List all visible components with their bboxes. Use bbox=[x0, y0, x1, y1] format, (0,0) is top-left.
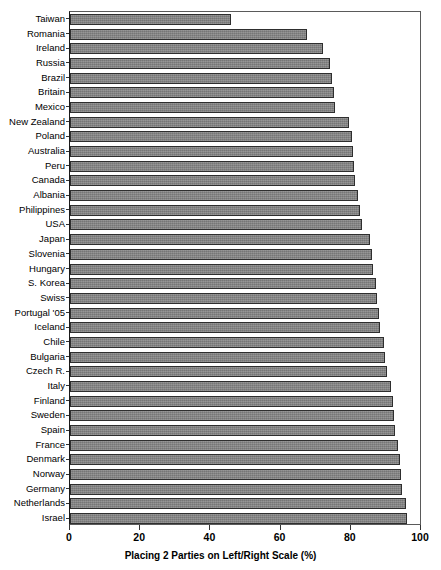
bar-row bbox=[70, 352, 421, 363]
bar bbox=[70, 205, 360, 216]
bar bbox=[70, 293, 377, 304]
bar bbox=[70, 146, 353, 157]
bar bbox=[70, 117, 349, 128]
y-axis-label: USA bbox=[0, 218, 65, 229]
bar-row bbox=[70, 337, 421, 348]
bar bbox=[70, 396, 393, 407]
bar-row bbox=[70, 29, 421, 40]
bar-row bbox=[70, 440, 421, 451]
y-axis-label: Chile bbox=[0, 336, 65, 347]
y-axis-label: Italy bbox=[0, 380, 65, 391]
bar bbox=[70, 454, 400, 465]
y-axis-label: Spain bbox=[0, 424, 65, 435]
bar-row bbox=[70, 87, 421, 98]
x-axis-title: Placing 2 Parties on Left/Right Scale (%… bbox=[0, 549, 441, 563]
y-axis-label: France bbox=[0, 439, 65, 450]
bar bbox=[70, 58, 330, 69]
y-axis-label: Swiss bbox=[0, 292, 65, 303]
y-axis-label: New Zealand bbox=[0, 116, 65, 127]
y-axis-label: Japan bbox=[0, 233, 65, 244]
y-axis-label: Sweden bbox=[0, 409, 65, 420]
bar-row bbox=[70, 513, 421, 524]
bar bbox=[70, 322, 380, 333]
y-axis-label: Canada bbox=[0, 174, 65, 185]
y-axis-label: Australia bbox=[0, 145, 65, 156]
bar-row bbox=[70, 219, 421, 230]
bar-row bbox=[70, 469, 421, 480]
y-axis-label: Philippines bbox=[0, 204, 65, 215]
x-axis-tick-label: 100 bbox=[411, 530, 429, 544]
y-axis-label: Bulgaria bbox=[0, 351, 65, 362]
bar-row bbox=[70, 161, 421, 172]
y-axis-label: Russia bbox=[0, 57, 65, 68]
y-axis-label: Norway bbox=[0, 468, 65, 479]
bar bbox=[70, 513, 407, 524]
bar-row bbox=[70, 366, 421, 377]
bar bbox=[70, 73, 332, 84]
y-axis-label: Hungary bbox=[0, 263, 65, 274]
bar bbox=[70, 29, 307, 40]
bar bbox=[70, 469, 401, 480]
bar-row bbox=[70, 58, 421, 69]
bar-row bbox=[70, 43, 421, 54]
bar bbox=[70, 308, 379, 319]
y-axis-label: Netherlands bbox=[0, 497, 65, 508]
bar-row bbox=[70, 117, 421, 128]
bar-row bbox=[70, 498, 421, 509]
bar-row bbox=[70, 454, 421, 465]
bar-row bbox=[70, 146, 421, 157]
bar bbox=[70, 352, 385, 363]
bar bbox=[70, 278, 376, 289]
bar-row bbox=[70, 278, 421, 289]
x-axis-tick-label: 80 bbox=[344, 530, 356, 544]
bar bbox=[70, 219, 362, 230]
bar bbox=[70, 14, 231, 25]
y-axis-label: Ireland bbox=[0, 42, 65, 53]
bar-row bbox=[70, 410, 421, 421]
y-axis-label: Brazil bbox=[0, 72, 65, 83]
y-axis-label: Peru bbox=[0, 160, 65, 171]
x-axis-tick-label: 20 bbox=[133, 530, 145, 544]
bar bbox=[70, 102, 335, 113]
bar bbox=[70, 190, 358, 201]
bar-row bbox=[70, 73, 421, 84]
y-axis-label: Denmark bbox=[0, 453, 65, 464]
y-axis-label: Slovenia bbox=[0, 248, 65, 259]
y-axis-label: Germany bbox=[0, 483, 65, 494]
bar-row bbox=[70, 190, 421, 201]
bar bbox=[70, 264, 373, 275]
bar-row bbox=[70, 425, 421, 436]
bar bbox=[70, 381, 391, 392]
bar bbox=[70, 366, 387, 377]
bar-row bbox=[70, 264, 421, 275]
bar bbox=[70, 87, 334, 98]
bar-row bbox=[70, 102, 421, 113]
bar bbox=[70, 131, 352, 142]
bar bbox=[70, 425, 395, 436]
y-axis-label: Albania bbox=[0, 189, 65, 200]
bar bbox=[70, 498, 406, 509]
bar-row bbox=[70, 484, 421, 495]
x-axis-tick-label: 60 bbox=[274, 530, 286, 544]
bar-row bbox=[70, 131, 421, 142]
y-axis-category-labels: TaiwanRomaniaIrelandRussiaBrazilBritainM… bbox=[0, 11, 65, 525]
bar bbox=[70, 410, 394, 421]
bar-row bbox=[70, 175, 421, 186]
x-axis-tick-label: 40 bbox=[204, 530, 216, 544]
bar-row bbox=[70, 249, 421, 260]
bar bbox=[70, 175, 355, 186]
y-axis-label: Czech R. bbox=[0, 365, 65, 376]
x-axis-tick-labels: 020406080100 bbox=[0, 530, 441, 546]
y-axis-label: Israel bbox=[0, 512, 65, 523]
bar bbox=[70, 234, 370, 245]
bar bbox=[70, 161, 354, 172]
y-axis-label: Portugal '05 bbox=[0, 307, 65, 318]
x-axis-tick-label: 0 bbox=[66, 530, 72, 544]
bar-chart: TaiwanRomaniaIrelandRussiaBrazilBritainM… bbox=[0, 0, 441, 570]
bar bbox=[70, 440, 398, 451]
y-axis-label: S. Korea bbox=[0, 277, 65, 288]
bar-row bbox=[70, 234, 421, 245]
bar bbox=[70, 249, 372, 260]
y-axis-label: Mexico bbox=[0, 101, 65, 112]
y-axis-label: Iceland bbox=[0, 321, 65, 332]
